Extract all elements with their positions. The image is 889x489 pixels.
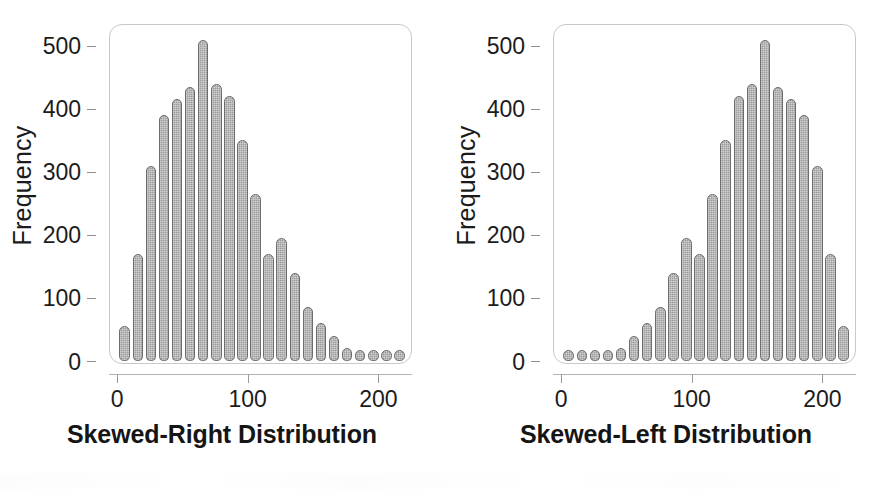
y-tick-mark-icon — [531, 235, 540, 236]
y-tick-mark-icon — [87, 172, 96, 173]
histogram-bar — [224, 96, 234, 361]
x-axis-line — [109, 374, 412, 375]
histogram-bar — [720, 140, 730, 361]
histogram-bar — [198, 40, 208, 361]
x-tick-mark-icon — [117, 374, 118, 383]
histogram-bar — [786, 99, 796, 361]
histogram-bar — [342, 348, 352, 361]
bars-container-left — [110, 25, 411, 363]
y-tick-500: 500 — [487, 38, 540, 56]
plot-area-left — [109, 24, 412, 364]
histogram-bar — [655, 307, 665, 361]
histogram-bar — [237, 140, 247, 361]
y-tick-label: 0 — [68, 349, 81, 376]
y-axis-ticks-right: 0100200300400500 — [478, 24, 540, 364]
y-tick-mark-icon — [531, 298, 540, 299]
x-tick-label-200: 200 — [803, 386, 841, 413]
panel-title-skewed-left: Skewed-Left Distribution — [444, 420, 888, 449]
x-axis-right: 0100200 — [553, 374, 856, 420]
histogram-bar — [603, 350, 613, 361]
x-tick-mark-icon — [692, 374, 693, 383]
histogram-bar — [747, 84, 757, 361]
histogram-bar — [316, 323, 326, 361]
panel-skewed-right: Frequency 0100200300400500 0100200 Skewe… — [0, 0, 444, 489]
y-tick-200: 200 — [487, 227, 540, 245]
y-tick-100: 100 — [43, 290, 96, 308]
histogram-bar — [563, 350, 573, 361]
histogram-bar — [668, 273, 678, 361]
y-tick-0: 0 — [68, 353, 96, 371]
x-tick-label-100: 100 — [673, 386, 711, 413]
histogram-bar — [172, 99, 182, 361]
x-tick-mark-icon — [822, 374, 823, 383]
x-tick-label-0: 0 — [111, 386, 124, 413]
histogram-bar — [760, 40, 770, 361]
y-tick-mark-icon — [87, 298, 96, 299]
y-tick-mark-icon — [87, 46, 96, 47]
y-tick-mark-icon — [87, 235, 96, 236]
histogram-bar — [303, 307, 313, 361]
histogram-bar — [133, 254, 143, 361]
histogram-bar — [368, 350, 378, 361]
y-tick-100: 100 — [487, 290, 540, 308]
histogram-bar — [146, 166, 156, 361]
y-axis-ticks-left: 0100200300400500 — [34, 24, 96, 364]
y-tick-label: 400 — [43, 96, 81, 123]
y-tick-label: 0 — [512, 349, 525, 376]
histogram-bar — [276, 238, 286, 361]
x-tick-label-100: 100 — [229, 386, 267, 413]
plot-area-right — [553, 24, 856, 364]
panel-title-skewed-right: Skewed-Right Distribution — [0, 420, 444, 449]
histogram-bar — [263, 254, 273, 361]
panel-skewed-left: Frequency 0100200300400500 0100200 Skewe… — [444, 0, 888, 489]
y-tick-300: 300 — [487, 164, 540, 182]
histogram-bar — [119, 326, 129, 361]
histogram-bar — [707, 194, 717, 361]
bars-container-right — [554, 25, 855, 363]
y-tick-400: 400 — [43, 101, 96, 119]
y-tick-mark-icon — [531, 172, 540, 173]
histogram-bar — [838, 326, 848, 361]
histogram-bar — [250, 194, 260, 361]
histogram-bar — [590, 350, 600, 361]
y-tick-mark-icon — [87, 361, 96, 362]
histogram-bar — [329, 336, 339, 361]
x-axis-left: 0100200 — [109, 374, 412, 420]
y-tick-label: 500 — [43, 33, 81, 60]
histogram-bar — [159, 115, 169, 361]
histogram-bar — [812, 166, 822, 361]
histogram-bar — [681, 238, 691, 361]
histogram-bar — [355, 350, 365, 361]
histogram-bar — [773, 87, 783, 361]
y-tick-label: 500 — [487, 33, 525, 60]
x-tick-mark-icon — [378, 374, 379, 383]
histogram-bar — [290, 273, 300, 361]
y-tick-400: 400 — [487, 101, 540, 119]
y-tick-300: 300 — [43, 164, 96, 182]
histogram-bar — [616, 348, 626, 361]
histogram-bar — [394, 350, 404, 361]
y-tick-mark-icon — [531, 46, 540, 47]
histogram-bar — [577, 350, 587, 361]
y-tick-label: 300 — [487, 159, 525, 186]
histogram-bar — [211, 84, 221, 361]
histogram-bar — [734, 96, 744, 361]
histogram-bar — [629, 336, 639, 361]
y-tick-500: 500 — [43, 38, 96, 56]
y-tick-0: 0 — [512, 353, 540, 371]
y-tick-label: 400 — [487, 96, 525, 123]
histogram-bar — [694, 254, 704, 361]
histogram-bar — [381, 350, 391, 361]
x-tick-label-0: 0 — [555, 386, 568, 413]
histogram-bar — [642, 323, 652, 361]
y-tick-label: 300 — [43, 159, 81, 186]
y-tick-200: 200 — [43, 227, 96, 245]
x-tick-label-200: 200 — [359, 386, 397, 413]
histogram-bar — [799, 115, 809, 361]
histogram-bar — [825, 254, 835, 361]
y-tick-label: 100 — [43, 285, 81, 312]
x-axis-line — [553, 374, 856, 375]
x-tick-mark-icon — [248, 374, 249, 383]
y-tick-mark-icon — [531, 109, 540, 110]
y-tick-label: 100 — [487, 285, 525, 312]
